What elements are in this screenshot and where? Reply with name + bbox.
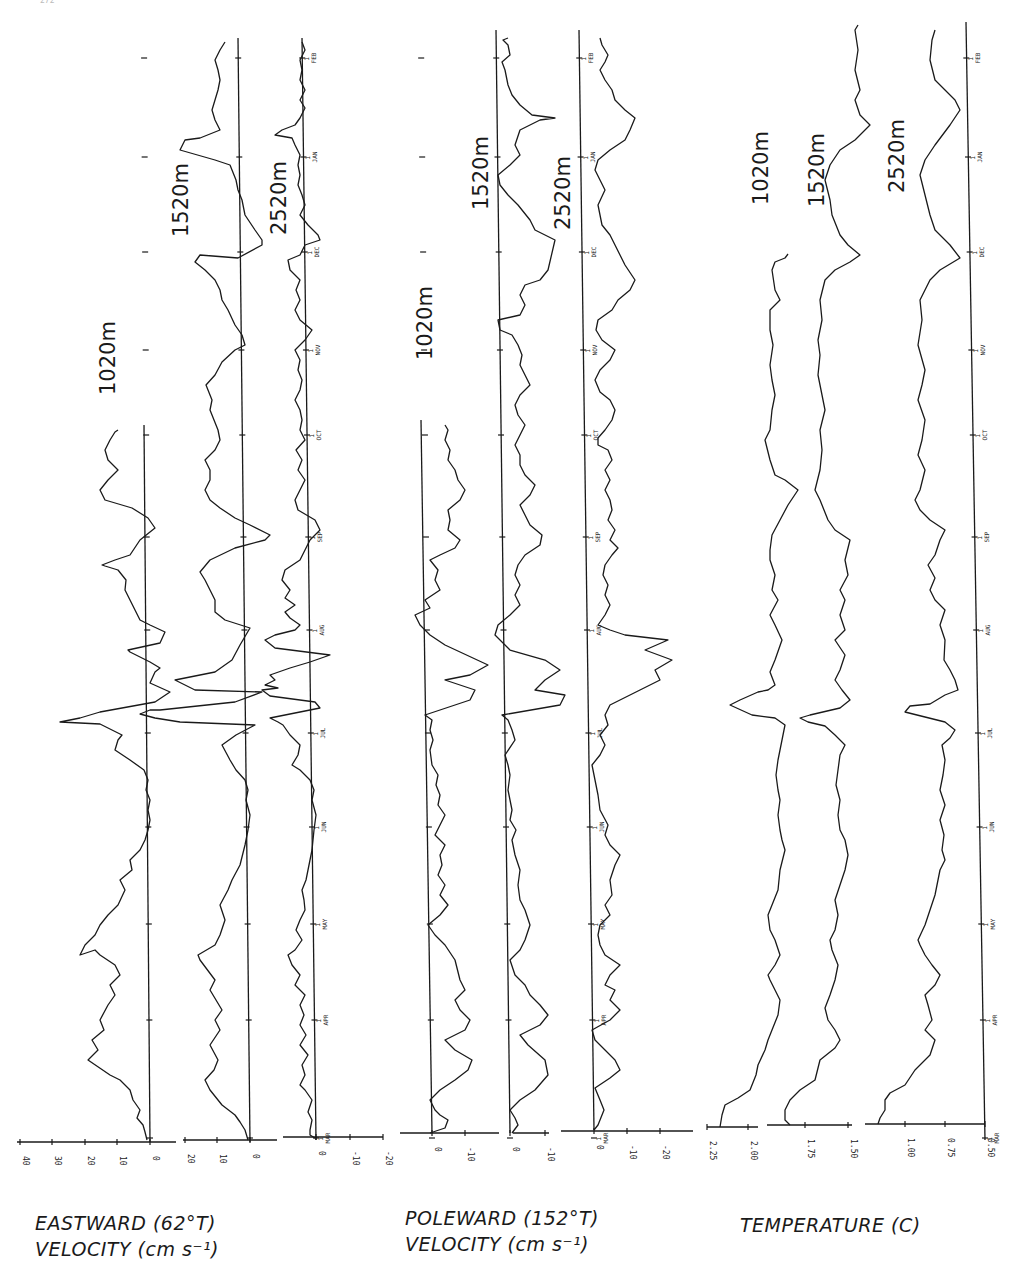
value-tick-label: 2.25 (708, 1141, 717, 1160)
month-label: MAR (993, 1132, 1000, 1143)
pole-1520-depth-label: 1520m (469, 136, 493, 210)
month-day-label: 1 (972, 349, 979, 353)
value-tick-label: 10 (218, 1154, 227, 1164)
axis-ticks (20, 58, 988, 1145)
value-axes (17, 1124, 985, 1142)
month-day-label: 1 (967, 57, 974, 61)
poleward-title: POLEWARD (152°T) VELOCITY (cm s⁻¹) (405, 1205, 599, 1257)
temp-1020-trace (720, 254, 798, 1127)
month-day-label: 1 (303, 57, 310, 61)
month-day-label: 1 (306, 251, 313, 255)
value-tick-label: 0 (433, 1147, 442, 1152)
value-tick-label: 0 (151, 1156, 160, 1161)
pole-2520-trace (592, 38, 672, 1130)
month-label: NOV (591, 344, 598, 355)
value-tick-label: 40 (21, 1156, 30, 1166)
month-day-label: 1 (311, 629, 318, 633)
eastward-title: EASTWARD (62°T) VELOCITY (cm s⁻¹) (35, 1210, 219, 1262)
month-day-label: 1 (977, 629, 984, 633)
value-tick-label: 0.75 (946, 1138, 955, 1157)
pole-1020-depth-label: 1020m (413, 286, 437, 360)
month-label: FEB (310, 52, 317, 63)
month-label: JUN (320, 821, 327, 832)
month-day-label: 1 (315, 1019, 322, 1023)
temperature-title-line1: TEMPERATURE (C) (740, 1212, 921, 1238)
value-tick-label: -20 (661, 1145, 670, 1160)
month-day-label: 1 (981, 826, 988, 830)
month-label: JUN (598, 821, 605, 832)
month-label: AUG (318, 624, 325, 635)
month-day-label: 1 (588, 629, 595, 633)
poleward-title-line1: POLEWARD (152°T) (405, 1205, 599, 1231)
value-tick-label: 0 (511, 1147, 520, 1152)
month-label: AUG (984, 624, 991, 635)
month-label: NOV (979, 344, 986, 355)
value-tick-label: -10 (628, 1145, 637, 1160)
temp-2520-trace (878, 30, 960, 1124)
month-label: DEC (590, 246, 597, 257)
month-day-label: 1 (304, 156, 311, 160)
temp-1520-depth-label: 1520m (805, 133, 829, 207)
month-labels: 1MAR1APR1MAY1JUN1JUL1AUG1SEP1OCT1NOV1DEC… (303, 52, 1000, 1143)
month-label: DEC (978, 246, 985, 257)
temp-2520-depth-label: 2520m (885, 119, 909, 193)
month-day-label: 1 (592, 923, 599, 927)
time-series-chart: 403020100201000-10-200-100-100-10-202.25… (0, 0, 1025, 1278)
value-tick-label: -10 (466, 1147, 475, 1162)
month-day-label: 1 (580, 57, 587, 61)
month-label: APR (322, 1014, 329, 1025)
value-tick-label: 1.00 (906, 1138, 915, 1157)
time-axis (966, 22, 985, 1140)
month-label: MAY (321, 918, 328, 929)
month-label: JAN (976, 151, 983, 162)
temperature-title: TEMPERATURE (C) (740, 1212, 921, 1238)
month-label: SEP (983, 531, 990, 542)
month-label: MAR (602, 1132, 609, 1143)
month-label: JUN (988, 821, 995, 832)
month-label: FEB (587, 52, 594, 63)
month-day-label: 1 (585, 434, 592, 438)
month-label: OCT (315, 429, 322, 440)
value-tick-label: 0 (317, 1151, 326, 1156)
east-2520-depth-label: 2520m (267, 161, 291, 235)
value-tick-label: 0 (251, 1154, 260, 1159)
month-label: DEC (313, 246, 320, 257)
month-label: JUL (986, 727, 993, 738)
month-day-label: 1 (314, 923, 321, 927)
month-label: MAR (324, 1132, 331, 1143)
east-1520-baseline (238, 38, 250, 1142)
value-tick-label: -20 (384, 1151, 393, 1166)
month-day-label: 1 (593, 1019, 600, 1023)
month-day-label: 1 (982, 923, 989, 927)
month-day-label: 1 (979, 732, 986, 736)
month-day-label: 1 (986, 1137, 993, 1141)
month-day-label: 1 (984, 1019, 991, 1023)
month-day-label: 1 (976, 536, 983, 540)
month-day-label: 1 (312, 732, 319, 736)
month-day-label: 1 (583, 251, 590, 255)
month-label: JAN (311, 151, 318, 162)
month-day-label: 1 (595, 1137, 602, 1141)
value-tick-label: 1.75 (806, 1139, 815, 1158)
east-1520-depth-label: 1520m (169, 163, 193, 237)
temp-1020-depth-label: 1020m (749, 131, 773, 205)
value-tick-label: 1.50 (849, 1139, 858, 1158)
value-tick-label: 2.00 (749, 1141, 758, 1160)
eastward-title-line2: VELOCITY (cm s⁻¹) (35, 1236, 219, 1262)
month-day-label: 1 (591, 826, 598, 830)
value-tick-label: 0 (595, 1145, 604, 1150)
month-day-label: 1 (587, 536, 594, 540)
month-label: APR (991, 1014, 998, 1025)
east-1020-depth-label: 1020m (96, 321, 120, 395)
east-1020-trace (60, 430, 170, 1140)
month-day-label: 1 (584, 349, 591, 353)
month-label: OCT (981, 429, 988, 440)
month-day-label: 1 (582, 156, 589, 160)
month-label: JAN (589, 151, 596, 162)
value-tick-label: 10 (118, 1156, 127, 1166)
month-day-label: 1 (971, 251, 978, 255)
pole-2520-baseline (579, 30, 594, 1130)
pole-1020-baseline (421, 420, 432, 1133)
month-day-label: 1 (589, 732, 596, 736)
pole-2520-depth-label: 2520m (551, 156, 575, 230)
